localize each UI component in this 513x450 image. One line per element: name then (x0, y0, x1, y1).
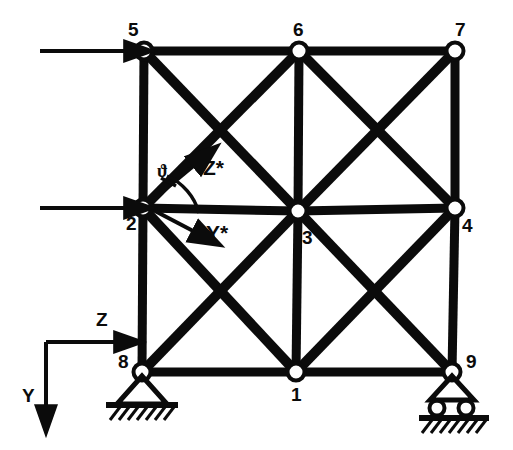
global-axes (46, 342, 118, 409)
angle-theta-label: ϑ (157, 162, 168, 180)
node-label-1: 1 (291, 385, 302, 404)
global-y-axis-label: Y (22, 386, 35, 405)
node-label-2: 2 (126, 214, 137, 233)
node-label-4: 4 (462, 216, 473, 235)
joint-6 (291, 43, 308, 60)
truss-drawing (0, 0, 513, 450)
member-4-9 (452, 208, 455, 372)
joint-1 (288, 364, 305, 381)
member-5-2 (143, 51, 144, 208)
member-3-1 (296, 211, 298, 372)
ground-hatching-8 (110, 407, 174, 420)
node-label-5: 5 (128, 20, 139, 39)
support-pinned-node-8 (106, 376, 178, 420)
joint-4 (447, 200, 464, 217)
roller-wheel-right (459, 401, 474, 416)
global-z-axis-label: Z (96, 310, 108, 329)
joint-3 (290, 203, 307, 220)
roller-wheel-left (430, 401, 445, 416)
local-y-star-label: Y* (206, 222, 228, 243)
local-z-star-label: Z* (203, 157, 224, 178)
member-3-4 (298, 208, 455, 211)
support-roller-node-9 (419, 376, 489, 433)
node-label-6: 6 (293, 20, 304, 39)
joint-5 (136, 43, 153, 60)
joint-7 (447, 43, 464, 60)
node-label-9: 9 (466, 352, 477, 371)
member-2-3 (143, 208, 298, 211)
ground-hatching-9 (422, 420, 486, 433)
member-2-8 (142, 208, 143, 372)
node-label-3: 3 (302, 228, 313, 247)
load-arrows (40, 51, 128, 208)
node-label-7: 7 (455, 20, 466, 39)
member-6-3 (298, 51, 299, 211)
truss-diagram-canvas: 5 6 7 2 3 4 8 1 9 Z Y ϑ Z* Y* (0, 0, 513, 450)
node-label-8: 8 (118, 352, 129, 371)
joint-2 (135, 200, 152, 217)
